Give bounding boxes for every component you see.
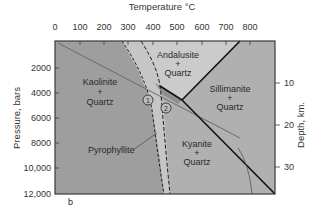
depth-axis-title: Depth, km. bbox=[295, 102, 306, 148]
temp-tick: 100 bbox=[72, 22, 87, 32]
label-pyrophyllite: Pyrophyllite bbox=[88, 145, 135, 155]
pressure-tick: 4000 bbox=[31, 88, 51, 98]
panel-label: b bbox=[68, 197, 73, 207]
svg-text:Kaolinite: Kaolinite bbox=[83, 77, 118, 87]
pressure-tick: 10,000 bbox=[23, 163, 51, 173]
depth-ticks: 10 20 30 bbox=[284, 78, 294, 172]
pressure-ticks: 2000 4000 6000 8000 10,000 12,000 bbox=[23, 63, 51, 199]
depth-tick: 10 bbox=[284, 78, 294, 88]
svg-text:Quartz: Quartz bbox=[216, 102, 244, 112]
temp-tick: 800 bbox=[242, 22, 257, 32]
temperature-axis-title: Temperature °C bbox=[129, 1, 196, 12]
depth-tick: 20 bbox=[284, 120, 294, 130]
pressure-axis-title: Pressure, bars bbox=[11, 87, 22, 149]
temp-tick: 200 bbox=[96, 22, 111, 32]
svg-text:+: + bbox=[97, 87, 102, 97]
svg-text:Quartz: Quartz bbox=[164, 68, 192, 78]
depth-tick: 30 bbox=[284, 162, 294, 172]
temp-tick: 400 bbox=[145, 22, 160, 32]
pressure-tick: 8000 bbox=[31, 138, 51, 148]
temp-tick: 0 bbox=[52, 22, 57, 32]
temp-tick: 300 bbox=[120, 22, 135, 32]
marker-2: 2 bbox=[161, 103, 171, 113]
svg-text:Quartz: Quartz bbox=[183, 157, 211, 167]
temp-tick: 600 bbox=[194, 22, 209, 32]
marker-1: 1 bbox=[143, 95, 153, 105]
plot-area bbox=[55, 41, 275, 194]
svg-text:2: 2 bbox=[164, 105, 168, 112]
phase-diagram: Temperature °C 0 100 200 300 400 500 600… bbox=[0, 0, 314, 216]
svg-text:Quartz: Quartz bbox=[86, 97, 114, 107]
pressure-tick: 2000 bbox=[31, 63, 51, 73]
temp-tick: 700 bbox=[218, 22, 233, 32]
pressure-tick: 6000 bbox=[31, 113, 51, 123]
svg-text:1: 1 bbox=[146, 97, 150, 104]
pressure-tick: 12,000 bbox=[23, 189, 51, 199]
temp-tick: 500 bbox=[169, 22, 184, 32]
temperature-ticks: 0 100 200 300 400 500 600 700 800 bbox=[52, 22, 257, 32]
